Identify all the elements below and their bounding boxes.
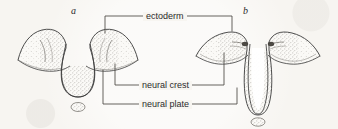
panel-a-notochord — [71, 103, 85, 112]
panel-a-embryo-section — [10, 22, 152, 112]
label-ectoderm: ectoderm — [143, 12, 187, 21]
label-neural-plate: neural plate — [139, 100, 192, 109]
label-neural-crest: neural crest — [139, 81, 192, 90]
panel-b-notochord — [251, 118, 265, 126]
panel-b-letter: b — [243, 6, 248, 16]
panel-b-embryo-section — [190, 26, 330, 126]
figure-canvas: a b ectoderm neural crest neural plate — [0, 0, 338, 129]
panel-a-neuroepithelium-stipple — [10, 22, 152, 104]
panel-a-letter: a — [71, 6, 76, 16]
